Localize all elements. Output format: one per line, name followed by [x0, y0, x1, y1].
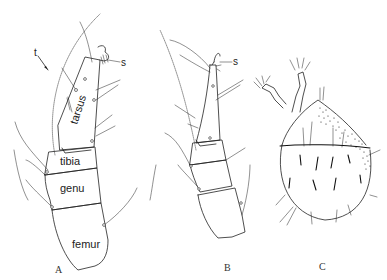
panel-a-leg-drawing: tarsus tibia genu femur t s A	[14, 14, 137, 275]
segment-label-tibia: tibia	[60, 155, 81, 167]
stipple-texture	[318, 107, 370, 169]
panel-c-body-drawing: C	[254, 58, 380, 272]
pointer-label-s: s	[121, 57, 126, 68]
panel-b-leg-drawing: s B	[150, 30, 250, 273]
pointer-label-t: t	[34, 47, 37, 58]
panel-label-b: B	[224, 262, 231, 273]
segment-label-tarsus: tarsus	[67, 93, 88, 126]
segment-label-femur: femur	[72, 238, 100, 250]
panel-label-c: C	[319, 261, 326, 272]
pointer-label-s-b: s	[233, 56, 238, 67]
segment-label-genu: genu	[60, 182, 84, 194]
panel-label-a: A	[55, 264, 63, 275]
anatomical-figure: tarsus tibia genu femur t s A	[0, 0, 387, 280]
